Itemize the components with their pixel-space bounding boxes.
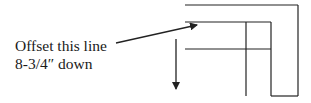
outer-frame [185, 5, 298, 96]
inner-frame [185, 22, 271, 96]
annotation-line-2: 8-3/4″ down [15, 55, 93, 73]
annotation-line-1: Offset this line [15, 37, 107, 55]
offset-diagram: Offset this line 8-3/4″ down [0, 0, 311, 103]
pointer-arrow-icon [116, 25, 197, 43]
